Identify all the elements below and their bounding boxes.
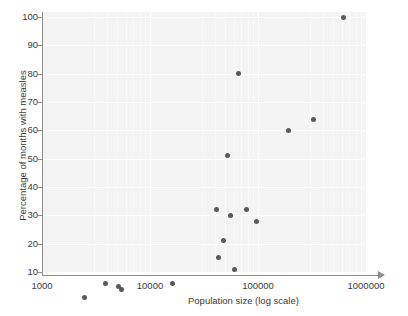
gridline-horizontal bbox=[42, 17, 366, 18]
gridline-vertical-minor bbox=[202, 12, 203, 272]
gridline-vertical-minor bbox=[356, 12, 357, 272]
gridline-horizontal bbox=[42, 215, 366, 216]
gridline-vertical bbox=[366, 12, 367, 272]
gridline-vertical-minor bbox=[361, 12, 362, 272]
gridline-vertical-minor bbox=[310, 12, 311, 272]
y-tick-mark bbox=[38, 159, 42, 160]
y-tick-mark bbox=[38, 130, 42, 131]
y-axis-line bbox=[42, 12, 43, 276]
data-point bbox=[244, 207, 249, 212]
gridline-horizontal bbox=[42, 74, 366, 75]
gridline-horizontal bbox=[42, 159, 366, 160]
x-tick-label: 1000000 bbox=[326, 281, 406, 291]
gridline-vertical-minor bbox=[126, 12, 127, 272]
gridline-horizontal bbox=[42, 272, 366, 273]
gridline-horizontal bbox=[42, 187, 366, 188]
plot-area bbox=[42, 12, 366, 272]
gridline-horizontal bbox=[42, 45, 366, 46]
y-tick-mark bbox=[38, 45, 42, 46]
gridline-vertical-minor bbox=[107, 12, 108, 272]
gridline-vertical-minor bbox=[117, 12, 118, 272]
x-axis-arrow-icon bbox=[378, 271, 385, 279]
gridline-vertical-minor bbox=[241, 12, 242, 272]
gridline-vertical-minor bbox=[94, 12, 95, 272]
y-tick-mark bbox=[38, 102, 42, 103]
data-point bbox=[341, 15, 346, 20]
gridline-vertical-minor bbox=[248, 12, 249, 272]
data-point bbox=[119, 287, 124, 292]
data-point bbox=[214, 207, 219, 212]
gridline-horizontal bbox=[42, 130, 366, 131]
gridline-vertical-minor bbox=[215, 12, 216, 272]
y-axis-title: Percentage of months with measles bbox=[17, 6, 28, 286]
data-point bbox=[232, 267, 237, 272]
data-point bbox=[254, 219, 259, 224]
scatter-chart: 102030405060708090100 100010000100000100… bbox=[0, 0, 408, 316]
gridline-vertical-minor bbox=[342, 12, 343, 272]
x-axis-line bbox=[42, 275, 380, 276]
data-point bbox=[170, 281, 175, 286]
gridline-vertical-minor bbox=[333, 12, 334, 272]
gridline-vertical-minor bbox=[133, 12, 134, 272]
gridline-horizontal bbox=[42, 244, 366, 245]
x-tick-label: 100000 bbox=[218, 281, 298, 291]
y-tick-mark bbox=[38, 215, 42, 216]
gridline-vertical-minor bbox=[140, 12, 141, 272]
gridline-vertical-minor bbox=[234, 12, 235, 272]
gridline-horizontal bbox=[42, 102, 366, 103]
y-tick-mark bbox=[38, 17, 42, 18]
y-tick-mark bbox=[38, 74, 42, 75]
gridline-vertical-minor bbox=[349, 12, 350, 272]
gridline-vertical bbox=[150, 12, 151, 272]
data-point bbox=[103, 281, 108, 286]
data-point bbox=[286, 128, 291, 133]
gridline-vertical-minor bbox=[225, 12, 226, 272]
gridline-vertical-minor bbox=[145, 12, 146, 272]
x-axis-title: Population size (log scale) bbox=[188, 295, 388, 306]
gridline-vertical-minor bbox=[253, 12, 254, 272]
gridline-vertical bbox=[258, 12, 259, 272]
x-tick-label: 1000 bbox=[2, 281, 82, 291]
gridline-vertical-minor bbox=[323, 12, 324, 272]
y-tick-mark bbox=[38, 272, 42, 273]
y-tick-mark bbox=[38, 187, 42, 188]
data-point bbox=[82, 295, 87, 300]
y-tick-mark bbox=[38, 244, 42, 245]
